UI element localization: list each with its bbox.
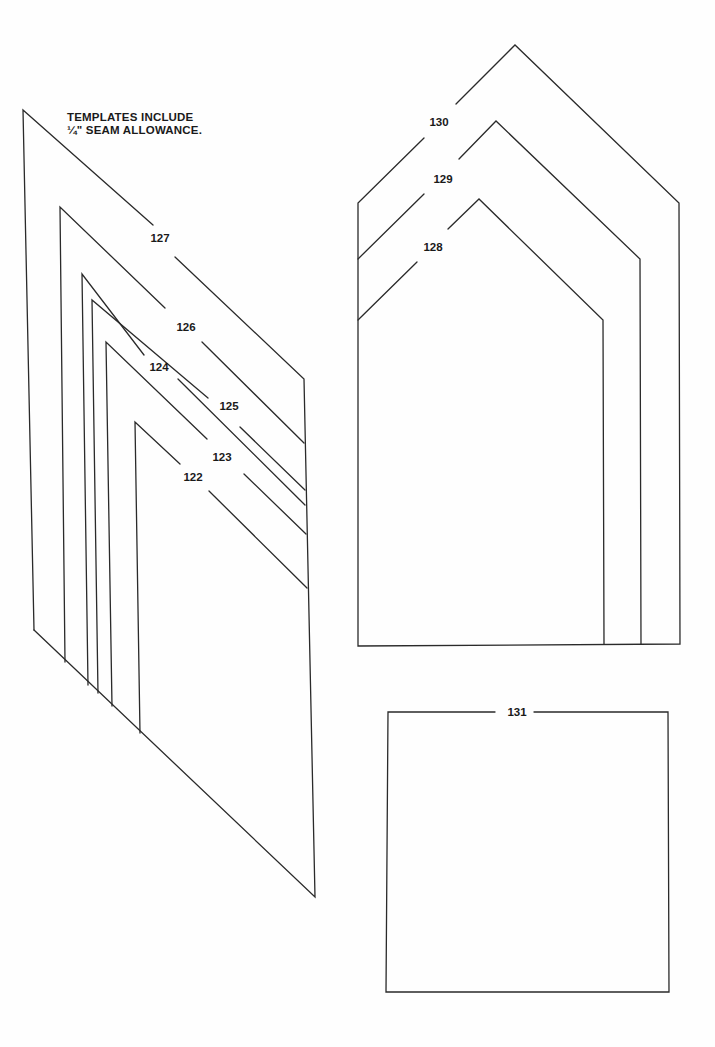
right-template-group <box>358 45 680 646</box>
template-drawing <box>0 0 715 1047</box>
label-128: 128 <box>423 241 442 253</box>
template-127-outline <box>23 110 315 897</box>
template-130-outline <box>358 45 680 646</box>
label-122: 122 <box>183 471 202 483</box>
label-123: 123 <box>212 451 231 463</box>
template-129-outline <box>358 121 641 644</box>
seam-allowance-note: TEMPLATES INCLUDE ¼" SEAM ALLOWANCE. <box>67 111 202 137</box>
template-122-outline <box>135 422 307 733</box>
label-127: 127 <box>150 232 169 244</box>
label-131: 131 <box>507 706 526 718</box>
pattern-page: TEMPLATES INCLUDE ¼" SEAM ALLOWANCE. 127… <box>0 0 715 1047</box>
label-130: 130 <box>429 116 448 128</box>
label-124: 124 <box>149 361 168 373</box>
note-line-2: ¼" SEAM ALLOWANCE. <box>67 124 202 137</box>
label-129: 129 <box>433 173 452 185</box>
label-125: 125 <box>219 400 238 412</box>
left-template-group <box>23 110 315 897</box>
template-131-outline <box>386 712 669 992</box>
note-line-1: TEMPLATES INCLUDE <box>67 111 202 124</box>
label-126: 126 <box>176 321 195 333</box>
template-128-outline <box>358 199 604 644</box>
